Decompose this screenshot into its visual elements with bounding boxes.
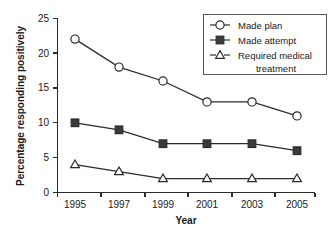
y-tick-label: 5	[43, 152, 49, 163]
series-line-made-attempt	[75, 123, 297, 151]
legend-item-made-attempt[interactable]: Made attempt	[210, 35, 296, 46]
data-point	[115, 126, 123, 134]
data-point	[293, 147, 301, 155]
legend-label: Made attempt	[238, 35, 296, 46]
y-tick-label: 10	[38, 117, 50, 128]
y-axis-title: Percentage responding positively	[15, 26, 26, 186]
data-point	[115, 63, 123, 71]
series-line-required-medical-treatment	[75, 165, 297, 179]
data-point	[71, 119, 79, 127]
legend-marker-filled-square	[216, 36, 224, 44]
legend-label-line2: treatment	[256, 63, 296, 74]
x-axis-title: Year	[175, 215, 196, 226]
data-point	[159, 77, 167, 85]
x-tick-label: 2005	[286, 199, 309, 210]
x-tick-label: 1999	[152, 199, 175, 210]
x-tick-labels: 1995 1997 1999 2001 2003 2005	[64, 199, 309, 210]
y-tick-labels: 0 5 10 15 20 25	[38, 13, 50, 198]
x-tick-label: 2001	[196, 199, 219, 210]
data-point	[203, 174, 212, 182]
x-tick-label: 1995	[64, 199, 87, 210]
data-point	[159, 140, 167, 148]
chart-container: 0 5 10 15 20 25 1995 1997 1999 2001 2003…	[0, 0, 332, 242]
x-axis-ticks	[58, 193, 316, 198]
data-point	[71, 160, 80, 168]
legend-item-made-plan[interactable]: Made plan	[210, 20, 282, 31]
series-required-medical-treatment	[71, 160, 302, 182]
data-point	[248, 98, 256, 106]
data-point	[203, 98, 211, 106]
y-tick-label: 15	[38, 82, 50, 93]
y-axis-ticks	[53, 18, 58, 192]
legend-label: Required medical	[238, 50, 312, 61]
y-tick-label: 20	[38, 48, 50, 59]
x-tick-label: 2003	[241, 199, 264, 210]
legend-marker-open-circle	[216, 21, 224, 29]
legend-label: Made plan	[238, 20, 282, 31]
data-point	[248, 174, 257, 182]
line-chart: 0 5 10 15 20 25 1995 1997 1999 2001 2003…	[0, 0, 332, 242]
data-point	[293, 112, 301, 120]
data-point	[203, 140, 211, 148]
data-point	[293, 174, 302, 182]
data-point	[71, 35, 79, 43]
y-tick-label: 0	[43, 187, 49, 198]
y-tick-label: 25	[38, 13, 50, 24]
series-made-attempt	[71, 119, 301, 155]
x-tick-label: 1997	[108, 199, 131, 210]
data-point	[248, 140, 256, 148]
chart-legend: Made plan Made attempt Required medical …	[204, 15, 327, 75]
